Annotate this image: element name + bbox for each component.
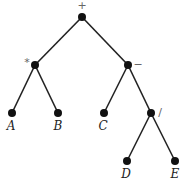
node-label: A: [6, 119, 16, 133]
node-label: C: [98, 119, 107, 133]
node-label: +: [77, 0, 86, 12]
node-label: B: [53, 119, 63, 133]
node-dot: [8, 109, 16, 117]
node-dot: [100, 109, 108, 117]
edge-plus-times: [35, 17, 82, 65]
node-label: E: [170, 167, 180, 180]
node-dot: [147, 109, 155, 117]
node-dot: [123, 157, 131, 165]
tree-node-times: *: [24, 56, 39, 69]
tree-node-E: E: [170, 157, 180, 180]
edges: [12, 17, 175, 161]
edge-plus-minus: [82, 17, 128, 65]
node-dot: [124, 61, 132, 69]
edge-times-A: [12, 65, 35, 113]
node-dot: [78, 13, 86, 21]
tree-node-C: C: [98, 109, 108, 133]
tree-node-plus: +: [77, 0, 86, 21]
edge-divide-E: [151, 113, 175, 161]
edge-minus-C: [104, 65, 128, 113]
node-label: −: [133, 58, 142, 71]
tree-node-B: B: [53, 109, 63, 133]
node-label: /: [158, 106, 162, 119]
edge-minus-divide: [128, 65, 151, 113]
tree-node-A: A: [6, 109, 16, 133]
node-dot: [54, 109, 62, 117]
edge-times-B: [35, 65, 58, 113]
node-dot: [31, 61, 39, 69]
node-label: D: [120, 167, 131, 180]
node-dot: [171, 157, 179, 165]
tree-node-D: D: [120, 157, 131, 180]
edge-divide-D: [127, 113, 151, 161]
expression-tree: +*−ABC/DE: [0, 0, 185, 180]
node-label: *: [24, 56, 30, 69]
